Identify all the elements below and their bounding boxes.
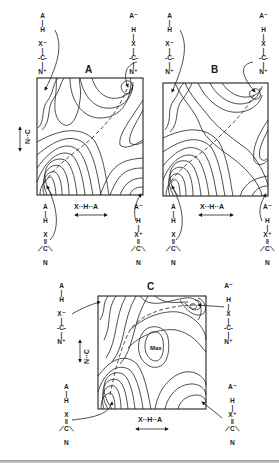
panel-b-arrow-bottom-left	[172, 186, 182, 240]
panel-c-arrow-bottom-right	[202, 402, 222, 418]
panel-b-arrow-top-right	[243, 62, 255, 92]
panel-b-arrow-bottom-right	[260, 194, 266, 221]
panel-a-arrow-bottom-right	[135, 194, 141, 221]
panel-a-arrow-top-left	[45, 30, 59, 90]
panel-c-contours	[98, 296, 206, 409]
panel-c-frame	[98, 296, 206, 409]
panel-c-arrow-top-right	[198, 305, 224, 307]
panel-c-arrow-top-left	[72, 302, 100, 314]
panel-b-contours	[163, 83, 268, 196]
contour-diagram	[0, 0, 279, 463]
panel-a-reaction-path	[44, 89, 127, 183]
panel-c-reaction-path	[110, 305, 195, 395]
panel-b-frame	[163, 83, 268, 196]
panel-a-contours	[37, 78, 143, 195]
